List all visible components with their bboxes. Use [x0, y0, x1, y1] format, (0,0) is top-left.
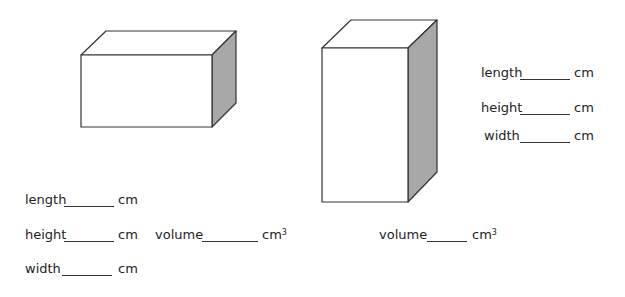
- length-label: length: [481, 65, 522, 81]
- box-a-wide-prism: [81, 31, 236, 127]
- volume-unit: cm3: [472, 227, 497, 243]
- width-label: width: [484, 128, 520, 144]
- volume-unit: cm3: [262, 227, 287, 243]
- length-unit: cm: [118, 192, 138, 208]
- width-label: width: [25, 261, 61, 277]
- box-b-volume-row: volume cm3: [379, 227, 519, 243]
- height-answer-blank[interactable]: [64, 241, 114, 242]
- width-unit: cm: [574, 128, 594, 144]
- height-label: height: [481, 100, 522, 116]
- width-unit: cm: [118, 261, 138, 277]
- box-b-width-row: width cm: [484, 128, 624, 144]
- figures: [0, 0, 625, 297]
- box-a-front-face: [81, 55, 212, 127]
- volume-answer-blank[interactable]: [427, 241, 467, 242]
- length-answer-blank[interactable]: [64, 206, 114, 207]
- height-unit: cm: [118, 227, 138, 243]
- height-answer-blank[interactable]: [520, 114, 570, 115]
- box-b-tall-prism: [322, 20, 437, 202]
- box-a-top-face: [81, 31, 236, 55]
- box-b-length-row: length cm: [481, 65, 621, 81]
- box-b-side-face: [408, 20, 437, 202]
- volume-label: volume: [155, 227, 203, 243]
- box-a-height-row: height cm: [25, 227, 165, 243]
- width-answer-blank[interactable]: [62, 275, 112, 276]
- box-a-length-row: length cm: [25, 192, 165, 208]
- height-unit: cm: [574, 100, 594, 116]
- box-a-volume-row: volume cm3: [155, 227, 295, 243]
- box-b-height-row: height cm: [481, 100, 621, 116]
- length-label: length: [25, 192, 66, 208]
- volume-label: volume: [379, 227, 427, 243]
- box-b-front-face: [322, 48, 408, 202]
- volume-answer-blank[interactable]: [202, 241, 258, 242]
- length-answer-blank[interactable]: [520, 79, 570, 80]
- box-a-width-row: width cm: [25, 261, 165, 277]
- height-label: height: [25, 227, 66, 243]
- length-unit: cm: [574, 65, 594, 81]
- width-answer-blank[interactable]: [520, 142, 570, 143]
